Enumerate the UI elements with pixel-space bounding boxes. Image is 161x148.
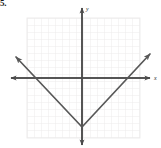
problem-number-label: 5.	[0, 0, 6, 8]
y-axis-label: y	[85, 6, 89, 12]
coordinate-plane-plot: y x	[0, 0, 161, 148]
x-axis-label: x	[153, 75, 157, 81]
graph-figure: 5. y x	[0, 0, 161, 148]
